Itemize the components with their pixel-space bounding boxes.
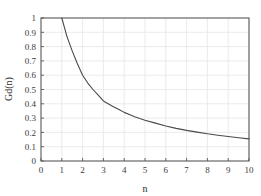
y-tick-label: 0.3 xyxy=(25,113,37,123)
x-tick-label: 1 xyxy=(60,165,65,175)
y-tick-label: 0.2 xyxy=(25,128,36,138)
y-tick-labels-group: 00.10.20.30.40.50.60.70.80.91 xyxy=(25,13,37,166)
x-tick-label: 8 xyxy=(205,165,210,175)
x-tick-label: 5 xyxy=(143,165,148,175)
y-tick-label: 0.8 xyxy=(25,42,37,52)
y-tick-label: 0.6 xyxy=(25,70,37,80)
y-tick-label: 0.4 xyxy=(25,99,37,109)
x-tick-label: 3 xyxy=(101,165,106,175)
x-tick-label: 0 xyxy=(39,165,44,175)
x-tick-label: 9 xyxy=(226,165,231,175)
x-tick-label: 6 xyxy=(164,165,169,175)
y-tick-label: 1 xyxy=(32,13,37,23)
x-tick-label: 4 xyxy=(122,165,127,175)
y-tick-label: 0.1 xyxy=(25,142,36,152)
y-axis-title: Gd(n) xyxy=(3,77,15,101)
y-tick-label: 0 xyxy=(32,156,37,166)
y-tick-label: 0.7 xyxy=(25,56,37,66)
x-tick-label: 7 xyxy=(184,165,189,175)
y-tick-label: 0.5 xyxy=(25,85,37,95)
plot-svg: 012345678910 00.10.20.30.40.50.60.70.80.… xyxy=(0,0,261,196)
x-tick-label: 2 xyxy=(80,165,85,175)
x-tick-label: 10 xyxy=(245,165,255,175)
y-tick-label: 0.9 xyxy=(25,28,37,38)
chart-figure: 012345678910 00.10.20.30.40.50.60.70.80.… xyxy=(0,0,261,196)
x-axis-title: n xyxy=(143,183,148,194)
